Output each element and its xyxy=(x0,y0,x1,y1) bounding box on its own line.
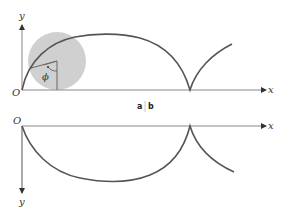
origin-label: O xyxy=(12,87,20,98)
origin-label-bottom: O xyxy=(13,115,21,126)
panel-labels: a b xyxy=(137,101,154,112)
inverted-cycloid-curve xyxy=(22,126,234,181)
angle-label: ϕ xyxy=(42,71,49,82)
cycloid-diagram: ϕ y x O a b x y O xyxy=(0,0,284,217)
panel-b: x y O xyxy=(13,115,274,207)
y-axis-label: y xyxy=(18,10,25,21)
x-axis-label-bottom: x xyxy=(268,120,274,131)
y-axis-label-bottom: y xyxy=(18,196,25,207)
x-axis-label: x xyxy=(268,84,274,95)
panel-a-label: a xyxy=(137,102,142,111)
angle-dot xyxy=(47,66,49,68)
panel-a: ϕ y x O xyxy=(12,10,274,98)
panel-b-label: b xyxy=(148,102,154,111)
